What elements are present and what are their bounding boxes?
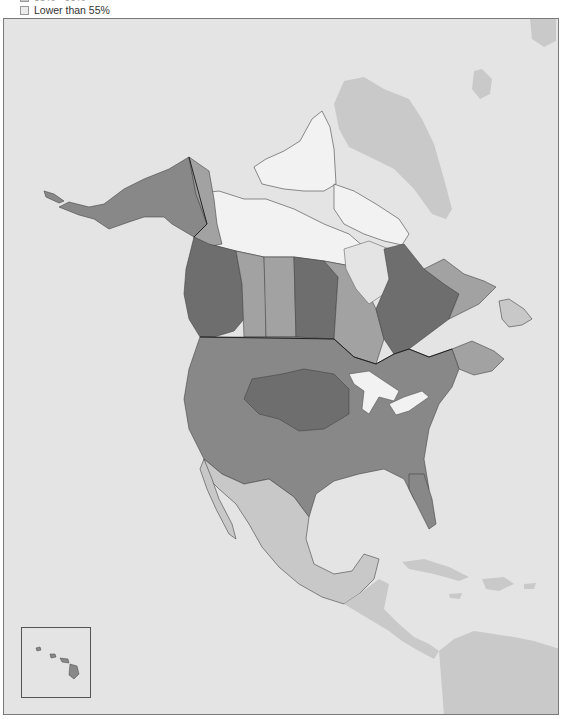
- legend-label: 55% - 60%: [34, 0, 85, 3]
- region-saskatchewan[interactable]: [264, 257, 296, 337]
- region-kauai: [36, 647, 41, 651]
- region-maui-molokai: [60, 658, 69, 663]
- region-british-columbia[interactable]: [184, 237, 244, 337]
- region-cuba: [402, 559, 469, 581]
- region-iceland: [472, 69, 492, 99]
- region-newfoundland[interactable]: [499, 299, 532, 327]
- region-svalbard: [530, 19, 556, 47]
- region-puerto-rico: [524, 583, 536, 589]
- map-legend: 55% - 60% Lower than 55%: [0, 0, 300, 18]
- region-arctic-archipelago: [254, 111, 336, 191]
- region-south-america: [439, 631, 559, 715]
- region-oahu: [50, 654, 56, 658]
- region-aleutians: [44, 191, 64, 203]
- region-big-island: [69, 664, 79, 679]
- choropleth-map[interactable]: [4, 19, 559, 715]
- region-alaska[interactable]: [59, 157, 207, 237]
- hawaii-inset: [21, 627, 91, 698]
- map-frame[interactable]: [3, 18, 559, 715]
- legend-item-lower-than-55: Lower than 55%: [20, 4, 110, 16]
- legend-swatch: [20, 0, 29, 2]
- region-maritimes[interactable]: [452, 341, 504, 375]
- legend-swatch: [20, 6, 29, 15]
- hawaii-map: [22, 628, 90, 697]
- legend-item-55-60: 55% - 60%: [20, 0, 85, 3]
- region-florida[interactable]: [409, 474, 436, 529]
- legend-label: Lower than 55%: [34, 4, 110, 16]
- region-hispaniola: [482, 577, 514, 591]
- region-jamaica: [449, 593, 462, 599]
- region-quebec[interactable]: [376, 244, 459, 354]
